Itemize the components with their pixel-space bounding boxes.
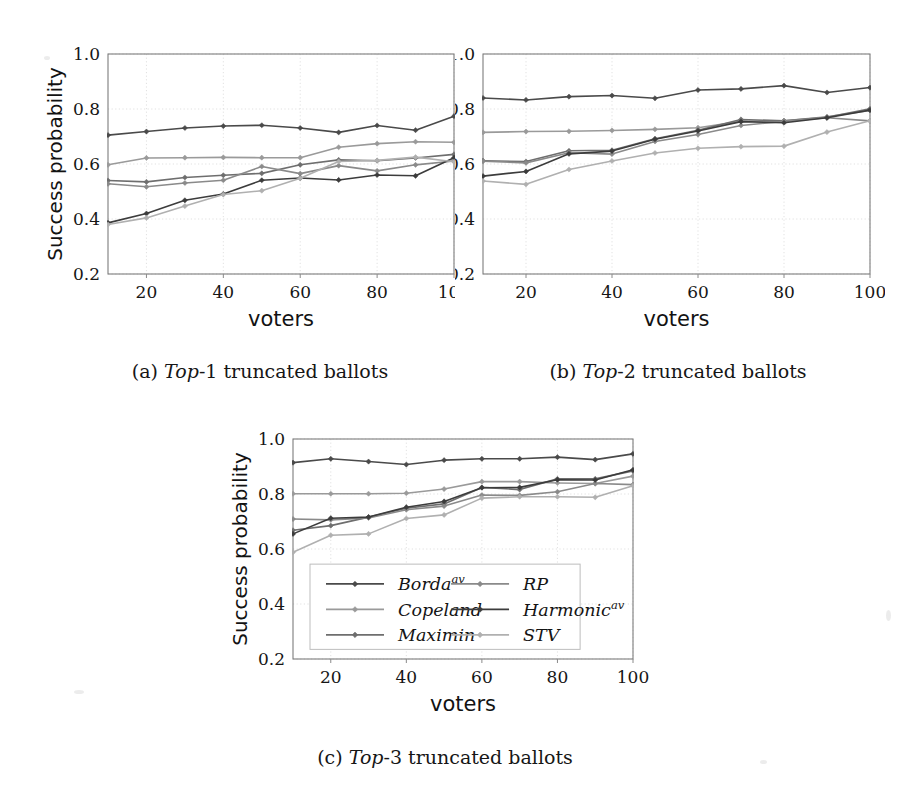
series-line	[108, 142, 454, 165]
data-point-marker	[290, 531, 295, 536]
data-point-marker	[593, 457, 598, 462]
x-tick-labels: 20406080100	[320, 659, 649, 687]
y-tick-label: 1.0	[258, 429, 285, 449]
data-point-marker	[290, 550, 295, 555]
x-tick-label: 40	[213, 282, 235, 302]
series-line	[483, 121, 870, 185]
chart-svg-c: 0.20.40.60.81.020406080100votersSuccess …	[225, 421, 655, 741]
data-point-marker	[221, 123, 226, 128]
caption-panel-a: (a) Top-1 truncated ballots	[60, 360, 460, 382]
data-point-marker	[480, 95, 485, 100]
grid-lines	[483, 54, 870, 274]
y-tick-label: 0.6	[258, 539, 285, 559]
data-point-marker	[824, 90, 829, 95]
data-point-marker	[480, 159, 485, 164]
data-point-marker	[182, 125, 187, 130]
series-line	[483, 86, 870, 100]
x-tick-label: 80	[366, 282, 388, 302]
y-tick-label: 0.4	[455, 209, 475, 229]
chart-panel-a: 0.20.40.60.81.020406080100votersSuccess …	[40, 36, 455, 356]
data-point-marker	[413, 139, 418, 144]
data-point-marker	[328, 491, 333, 496]
legend-label: Harmonicav	[522, 598, 625, 620]
series-Borda-av	[480, 83, 872, 103]
data-point-marker	[479, 485, 484, 490]
y-tick-label: 0.8	[73, 99, 100, 119]
chart-panel-c: 0.20.40.60.81.020406080100votersSuccess …	[225, 421, 655, 741]
series-RP	[290, 481, 635, 523]
data-point-marker	[298, 125, 303, 130]
caption-b-italic: Top	[582, 360, 617, 382]
data-point-marker	[404, 462, 409, 467]
caption-panel-c: (c) Top-3 truncated ballots	[245, 746, 645, 768]
data-point-marker	[336, 130, 341, 135]
data-point-marker	[259, 188, 264, 193]
series-Borda-av	[290, 451, 635, 467]
caption-b-suffix: -2 truncated ballots	[617, 360, 806, 382]
caption-b-prefix: (b)	[549, 360, 582, 382]
legend-label-superscript: av	[611, 598, 625, 612]
data-point-marker	[298, 162, 303, 167]
series-Borda-av	[105, 114, 455, 138]
series-line	[483, 118, 870, 163]
chart-svg-b: 0.20.40.60.81.020406080100votersSuccess …	[455, 36, 885, 356]
data-point-marker	[630, 451, 635, 456]
data-point-marker	[259, 178, 264, 183]
data-series-group	[105, 114, 455, 228]
x-tick-label: 20	[136, 282, 158, 302]
data-point-marker	[566, 129, 571, 134]
data-point-marker	[652, 96, 657, 101]
data-point-marker	[517, 456, 522, 461]
x-tick-label: 100	[617, 667, 649, 687]
x-axis-label: voters	[643, 307, 709, 331]
data-point-marker	[413, 173, 418, 178]
data-point-marker	[442, 512, 447, 517]
data-point-marker	[523, 129, 528, 134]
caption-a-italic: Top	[164, 360, 199, 382]
data-point-marker	[781, 83, 786, 88]
data-point-marker	[630, 474, 635, 479]
data-point-marker	[144, 129, 149, 134]
data-series-group	[290, 451, 635, 555]
y-tick-labels: 0.20.40.60.81.0	[258, 429, 285, 669]
data-point-marker	[105, 162, 110, 167]
data-point-marker	[555, 489, 560, 494]
data-point-marker	[375, 123, 380, 128]
data-point-marker	[479, 456, 484, 461]
data-point-marker	[259, 164, 264, 169]
x-tick-label: 20	[515, 282, 537, 302]
data-point-marker	[555, 494, 560, 499]
data-point-marker	[480, 178, 485, 183]
legend: BordaavCopelandMaximinRPHarmonicavSTV	[310, 564, 625, 649]
data-point-marker	[105, 133, 110, 138]
series-Copeland	[480, 108, 872, 135]
data-point-marker	[404, 516, 409, 521]
y-tick-label: 0.2	[455, 264, 475, 284]
data-point-marker	[144, 155, 149, 160]
figure-root: 0.20.40.60.81.020406080100votersSuccess …	[0, 0, 915, 812]
y-tick-label: 0.6	[455, 154, 475, 174]
data-point-marker	[298, 176, 303, 181]
caption-a-prefix: (a)	[132, 360, 164, 382]
data-point-marker	[259, 123, 264, 128]
series-Copeland	[290, 474, 635, 497]
scan-artifact	[886, 610, 891, 621]
data-point-marker	[413, 128, 418, 133]
x-tick-label: 100	[854, 282, 885, 302]
caption-c-italic: Top	[349, 746, 384, 768]
data-point-marker	[566, 167, 571, 172]
legend-label: RP	[522, 574, 549, 594]
x-tick-label: 40	[601, 282, 623, 302]
data-point-marker	[609, 128, 614, 133]
data-point-marker	[695, 146, 700, 151]
x-tick-label: 60	[471, 667, 493, 687]
data-point-marker	[298, 155, 303, 160]
data-point-marker	[182, 180, 187, 185]
caption-panel-b: (b) Top-2 truncated ballots	[478, 360, 878, 382]
x-tick-label: 100	[438, 282, 455, 302]
grid-lines	[108, 54, 454, 274]
data-point-marker	[328, 533, 333, 538]
chart-panel-b: 0.20.40.60.81.020406080100votersSuccess …	[455, 36, 885, 356]
x-tick-label: 80	[547, 667, 569, 687]
caption-c-suffix: -3 truncated ballots	[384, 746, 573, 768]
